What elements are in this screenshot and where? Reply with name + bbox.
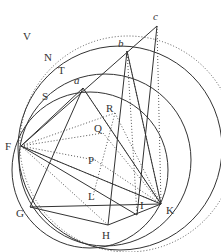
line-aK [83, 88, 161, 204]
point-label-G: G [16, 207, 24, 219]
point-label-a: a [74, 74, 80, 86]
arc-label-T: T [58, 64, 65, 76]
line-HK [108, 204, 161, 225]
arc-label-V: V [23, 30, 31, 42]
dotted-line-RK [115, 113, 161, 204]
point-label-b: b [118, 37, 124, 49]
point-label-P: P [88, 154, 94, 166]
dotted-line-FH [21, 146, 108, 225]
point-label-L: L [88, 190, 95, 202]
dotted-line-PK [95, 160, 161, 204]
line-Fc [21, 26, 157, 146]
point-label-F: F [5, 140, 11, 152]
point-label-K: K [166, 204, 174, 216]
arc-label-S: S [42, 90, 48, 102]
arc-label-N: N [44, 51, 52, 63]
line-GH [30, 207, 108, 225]
point-label-H: H [102, 229, 110, 241]
point-label-I: I [140, 199, 144, 211]
circle-aFGHIK [12, 92, 168, 248]
geometry-diagram: abcFGHIKRQPLVNTS [0, 0, 221, 252]
point-label-c: c [153, 10, 158, 22]
point-label-R: R [106, 102, 114, 114]
point-label-Q: Q [94, 122, 102, 134]
